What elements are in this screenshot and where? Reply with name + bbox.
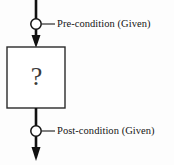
precondition-label: Pre-condition (Given) [57, 18, 150, 29]
postcondition-label: Post-condition (Given) [57, 125, 155, 136]
process-box-glyph: ? [31, 62, 43, 91]
outgoing-arrowhead-icon [32, 147, 41, 161]
precondition-marker-icon [31, 19, 41, 29]
incoming-arrowhead-icon [32, 35, 41, 48]
postcondition-marker-icon [31, 126, 41, 136]
flowchart-diagram: ? Pre-condition (Given) Post-condition (… [0, 0, 174, 165]
